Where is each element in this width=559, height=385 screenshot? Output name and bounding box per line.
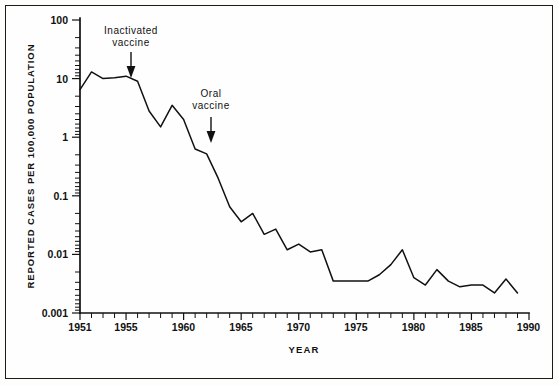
y-tick-label: 1 (62, 131, 68, 143)
y-tick-label: 10 (56, 73, 68, 85)
x-tick-label: 1965 (229, 321, 253, 333)
annotation-inactivated-vaccine: Inactivated vaccine (104, 25, 158, 78)
x-tick-label: 1970 (287, 321, 311, 333)
line-chart-svg: 100 10 1 0.1 0.01 0.001 1951 1955 1960 1… (0, 0, 559, 385)
annotation-label-line2: vaccine (112, 37, 149, 48)
annotation-label-line1: Inactivated (104, 25, 158, 36)
y-axis-major-ticks (72, 20, 80, 313)
y-tick-label: 0.01 (48, 248, 69, 260)
annotation-label-line1: Oral (201, 88, 222, 99)
annotation-oral-vaccine: Oral vaccine (192, 88, 229, 143)
x-tick-label: 1951 (68, 321, 92, 333)
x-tick-label: 1990 (517, 321, 541, 333)
x-tick-label: 1980 (402, 321, 426, 333)
x-tick-label: 1975 (344, 321, 368, 333)
x-tick-label: 1985 (459, 321, 483, 333)
y-tick-label: 100 (50, 14, 68, 26)
y-tick-label: 0.1 (53, 190, 68, 202)
y-axis-title: REPORTED CASES PER 100,000 POPULATION (25, 44, 36, 289)
x-tick-label: 1955 (114, 321, 138, 333)
x-axis-ticks (80, 313, 529, 320)
x-tick-label: 1960 (172, 321, 196, 333)
chart-figure: 100 10 1 0.1 0.01 0.001 1951 1955 1960 1… (0, 0, 559, 385)
data-series-line (80, 72, 517, 293)
y-tick-label: 0.001 (42, 307, 68, 319)
down-arrow-icon (207, 131, 216, 143)
x-axis-title: YEAR (289, 344, 320, 355)
annotation-label-line2: vaccine (192, 100, 229, 111)
